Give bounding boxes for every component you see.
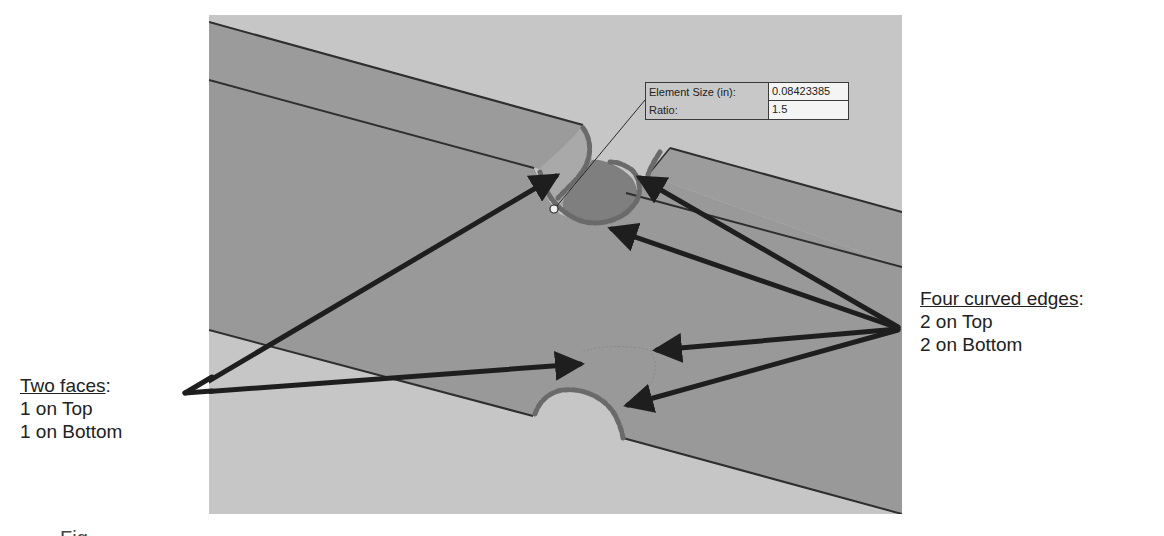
annotation-line: 2 on Top (920, 310, 1084, 333)
figure-canvas: Element Size (in): 0.08423385 Ratio: 1.5… (0, 0, 1164, 536)
annotation-four-edges-heading: Four curved edges (920, 288, 1078, 309)
element-size-label: Element Size (in): (646, 83, 768, 101)
figure-caption-fragment: Fig (60, 528, 360, 536)
annotation-two-faces: Two faces: 1 on Top 1 on Bottom (20, 374, 122, 443)
annotation-line: 2 on Bottom (920, 333, 1084, 356)
annotation-four-curved-edges: Four curved edges: 2 on Top 2 on Bottom (920, 287, 1084, 356)
figure-caption-text: Fig (60, 528, 360, 536)
arrow-overlay (0, 0, 1164, 536)
annotation-colon: : (106, 375, 111, 396)
element-size-field[interactable]: 0.08423385 (768, 83, 848, 101)
annotation-line: 1 on Bottom (20, 420, 122, 443)
mesh-control-dialog: Element Size (in): 0.08423385 Ratio: 1.5 (645, 82, 849, 120)
annotation-two-faces-heading: Two faces (20, 375, 106, 396)
annotation-colon: : (1078, 288, 1083, 309)
annotation-line: 1 on Top (20, 397, 122, 420)
ratio-field[interactable]: 1.5 (768, 101, 848, 119)
arrow-face-bottom-tail (185, 391, 212, 393)
ratio-label: Ratio: (646, 101, 768, 119)
